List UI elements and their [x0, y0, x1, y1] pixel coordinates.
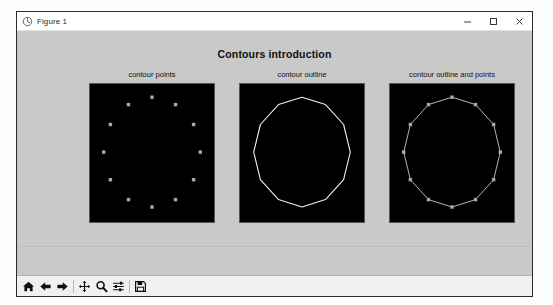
- subplot-title-2: contour outline: [239, 70, 365, 79]
- axes-contour-points[interactable]: [89, 83, 215, 223]
- subplot-contour-outline-and-points: contour outline and points: [389, 83, 515, 223]
- configure-subplots-button[interactable]: [110, 278, 127, 295]
- close-button[interactable]: [506, 12, 532, 30]
- window-titlebar[interactable]: Figure 1: [17, 12, 532, 31]
- forward-button[interactable]: [54, 278, 71, 295]
- pan-button[interactable]: [76, 278, 93, 295]
- home-button[interactable]: [20, 278, 37, 295]
- maximize-button[interactable]: [480, 12, 506, 30]
- figure-window: Figure 1: [16, 11, 533, 297]
- axes-contour-outline-and-points[interactable]: [389, 83, 515, 223]
- contour-point-markers: [402, 96, 502, 209]
- contour-outline-polygon: [404, 97, 501, 207]
- zoom-button[interactable]: [93, 278, 110, 295]
- back-button[interactable]: [37, 278, 54, 295]
- toolbar-separator: [73, 280, 74, 293]
- contour-point-markers: [102, 96, 202, 209]
- subplot-contour-outline: contour outline: [239, 83, 365, 223]
- figure-suptitle: Contours introduction: [17, 48, 532, 60]
- axes-contour-outline[interactable]: [239, 83, 365, 223]
- navigation-toolbar: [17, 275, 532, 296]
- window-controls: [454, 12, 532, 30]
- figure-canvas[interactable]: Contours introduction contour points: [17, 31, 532, 275]
- figure-icon: [22, 16, 33, 27]
- window-title: Figure 1: [37, 17, 67, 26]
- subplot-title-3: contour outline and points: [389, 70, 515, 79]
- subplot-title-1: contour points: [89, 70, 215, 79]
- screenshot-root: Figure 1: [0, 0, 553, 305]
- save-button[interactable]: [132, 278, 149, 295]
- canvas-divider-line: [17, 246, 532, 247]
- titlebar-left: Figure 1: [17, 16, 454, 27]
- minimize-button[interactable]: [454, 12, 480, 30]
- subplot-contour-points: contour points: [89, 83, 215, 223]
- contour-outline-polygon: [254, 97, 351, 207]
- toolbar-separator: [129, 280, 130, 293]
